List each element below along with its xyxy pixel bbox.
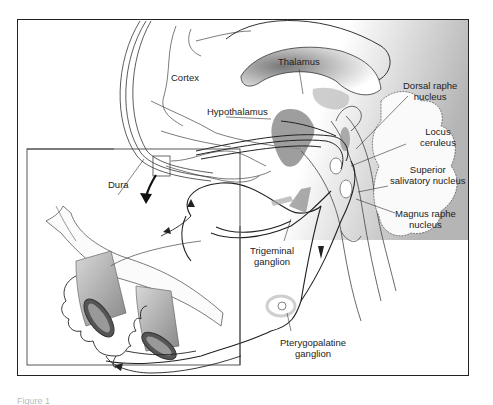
label-line: Superior xyxy=(390,165,466,176)
label-locus-ceruleus: Locus ceruleus xyxy=(420,127,456,148)
diagram-frame: Cortex Thalamus Hypothalamus Dorsal raph… xyxy=(17,19,469,376)
label-thalamus: Thalamus xyxy=(278,57,320,68)
label-line: Dorsal raphe xyxy=(403,81,457,92)
label-line: Locus xyxy=(420,127,456,138)
label-superior-salivatory-nucleus: Superior salivatory nucleus xyxy=(390,165,466,186)
label-line: salivatory nucleus xyxy=(390,176,466,187)
label-line: ceruleus xyxy=(420,138,456,149)
label-line: Trigeminal xyxy=(250,246,294,257)
label-dura: Dura xyxy=(108,180,129,191)
label-magnus-raphe-nucleus: Magnus raphe nucleus xyxy=(395,209,456,230)
label-line: nucleus xyxy=(395,220,456,231)
label-line: nucleus xyxy=(403,92,457,103)
label-pterygopalatine-ganglion: Pterygopalatine ganglion xyxy=(280,338,346,359)
inset-box xyxy=(27,149,240,365)
label-cortex: Cortex xyxy=(171,73,199,84)
label-dorsal-raphe-nucleus: Dorsal raphe nucleus xyxy=(403,81,457,102)
label-line: ganglion xyxy=(280,349,346,360)
label-line: ganglion xyxy=(250,257,294,268)
brain-illustration xyxy=(18,20,469,376)
label-line: Pterygopalatine xyxy=(280,338,346,349)
label-line: Magnus raphe xyxy=(395,209,456,220)
figure-caption: Figure 1 xyxy=(17,396,50,405)
label-hypothalamus: Hypothalamus xyxy=(207,107,268,118)
label-trigeminal-ganglion: Trigeminal ganglion xyxy=(250,246,294,267)
